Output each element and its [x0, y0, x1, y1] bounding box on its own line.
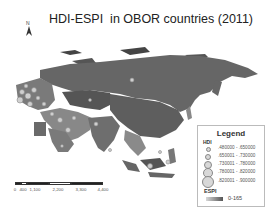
espi-range: 0-165	[228, 195, 242, 201]
egypt-region	[34, 122, 46, 136]
scale-label: 0	[14, 187, 16, 192]
scale-label: 2,200	[53, 187, 64, 192]
sumatra-region	[122, 160, 140, 172]
legend-title: Legend	[198, 129, 264, 138]
scale-label: 3,300	[76, 187, 87, 192]
north-arrow: N	[24, 20, 34, 38]
scale-segment	[71, 182, 103, 185]
arctic-island	[60, 50, 82, 55]
scale-bar: 0 400 1,100 2,200 3,300 4,400	[15, 182, 103, 185]
scale-label: 1,100	[30, 187, 41, 192]
espi-color-ramp	[206, 197, 223, 201]
scale-segment	[49, 182, 71, 185]
legend-box: Legend HDI .480000 - .650000 .650001 - .…	[197, 125, 265, 207]
hdi-range: .480000 - .650000	[218, 145, 255, 150]
borneo-region	[140, 158, 166, 170]
hdi-range: .820001 - .900000	[218, 178, 255, 183]
scale-label: 4,400	[98, 187, 109, 192]
south-asia-region	[88, 116, 120, 152]
hdi-range: .780001 - .820000	[218, 169, 255, 174]
north-label: N	[26, 20, 30, 26]
central-asia-region	[62, 90, 112, 110]
hdi-range: .730001 - .780000	[218, 161, 255, 166]
scale-segment	[27, 182, 49, 185]
legend-row-hdi-5: .820001 - .900000	[201, 177, 263, 186]
scale-label: 400	[19, 187, 26, 192]
espi-label: ESPI	[204, 188, 217, 194]
map-title: HDI-ESPI in OBOR countries (2011)	[49, 12, 253, 26]
hdi-range: .650001 - .730000	[218, 153, 255, 158]
hdi-symbol-icon	[202, 176, 214, 188]
arctic-island	[120, 47, 150, 55]
java-region	[148, 172, 175, 178]
map-figure: HDI-ESPI in OBOR countries (2011) N Lege…	[0, 0, 276, 218]
